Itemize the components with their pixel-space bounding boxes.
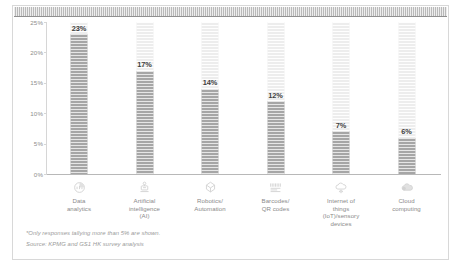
- category-item[interactable]: Dataanalytics: [47, 180, 111, 212]
- bar-background-track: [267, 22, 284, 101]
- category-label-line: analytics: [47, 205, 111, 213]
- bar-background-track: [333, 22, 350, 131]
- category-item[interactable]: Artificialintelligence(AI): [113, 180, 177, 220]
- category-label: Barcodes/QR codes: [244, 197, 308, 212]
- barcode-qr-icon: [244, 180, 308, 195]
- y-tick-label: 20%: [18, 49, 43, 56]
- bar-column[interactable]: 7%: [309, 22, 373, 174]
- y-tick-label: 0%: [18, 171, 43, 178]
- category-label: Cloudcomputing: [375, 197, 439, 212]
- bar-value-label: 23%: [72, 24, 87, 33]
- category-label: Dataanalytics: [47, 197, 111, 212]
- bar[interactable]: [136, 71, 153, 174]
- bar-value-label: 7%: [336, 121, 346, 130]
- category-label-line: intelligence: [113, 205, 177, 213]
- cloud-computing-icon: [375, 180, 439, 195]
- category-item[interactable]: Cloudcomputing: [375, 180, 439, 212]
- bar-column[interactable]: 23%: [47, 22, 111, 174]
- category-label-line: Cloud: [375, 197, 439, 205]
- bar[interactable]: [202, 89, 219, 174]
- bar-column[interactable]: 17%: [113, 22, 177, 174]
- x-axis-baseline: [46, 174, 441, 175]
- bar-value-label: 17%: [137, 60, 152, 69]
- category-label-line: (IoT)/sensory: [309, 212, 373, 220]
- bar[interactable]: [398, 138, 415, 174]
- bar-columns: 23%17%14%12%7%6%: [47, 22, 441, 174]
- category-label-line: computing: [375, 205, 439, 213]
- y-tick-label: 15%: [18, 79, 43, 86]
- category-label-line: Automation: [178, 205, 242, 213]
- top-hatched-band: [14, 7, 447, 17]
- category-label-line: Artificial: [113, 197, 177, 205]
- bar[interactable]: [71, 34, 88, 174]
- category-label-line: Robotics/: [178, 197, 242, 205]
- bar-column[interactable]: 6%: [375, 22, 439, 174]
- y-tick-mark: [44, 174, 47, 175]
- category-label-line: QR codes: [244, 205, 308, 213]
- category-item[interactable]: Robotics/Automation: [178, 180, 242, 212]
- y-tick-label: 5%: [18, 140, 43, 147]
- category-item[interactable]: Internet ofthings(IoT)/sensorydevices: [309, 180, 373, 227]
- category-label: Internet ofthings(IoT)/sensorydevices: [309, 197, 373, 227]
- bar-value-label: 6%: [401, 127, 411, 136]
- plot-area: 25%20%15%10%5%0% 23%17%14%12%7%6%: [18, 22, 443, 180]
- robotics-automation-icon: [178, 180, 242, 195]
- bar-column[interactable]: 14%: [178, 22, 242, 174]
- bar-value-label: 12%: [268, 91, 283, 100]
- chart-screenshot: 25%20%15%10%5%0% 23%17%14%12%7%6% Dataan…: [0, 0, 463, 269]
- category-label-line: devices: [309, 220, 373, 228]
- y-tick-label: 25%: [18, 19, 43, 26]
- category-item[interactable]: Barcodes/QR codes: [244, 180, 308, 212]
- category-label-line: (AI): [113, 212, 177, 220]
- artificial-intelligence-icon: [113, 180, 177, 195]
- bar[interactable]: [267, 101, 284, 174]
- category-label-line: Barcodes/: [244, 197, 308, 205]
- data-analytics-icon: [47, 180, 111, 195]
- bar-value-label: 14%: [203, 78, 218, 87]
- footnote-line-2: Source: KPMG and GS1 HK survey analysis: [26, 239, 326, 250]
- footnotes: *Only responses tallying more than 5% ar…: [26, 228, 326, 249]
- category-label-line: Data: [47, 197, 111, 205]
- bar-column[interactable]: 12%: [244, 22, 308, 174]
- internet-of-things-cloud-icon: [309, 180, 373, 195]
- bar-background-track: [398, 22, 415, 138]
- bar[interactable]: [333, 131, 350, 174]
- category-label: Artificialintelligence(AI): [113, 197, 177, 220]
- category-label: Robotics/Automation: [178, 197, 242, 212]
- category-label-line: things: [309, 205, 373, 213]
- y-tick-label: 10%: [18, 110, 43, 117]
- category-axis: DataanalyticsArtificialintelligence(AI)R…: [47, 180, 441, 228]
- footnote-line-1: *Only responses tallying more than 5% ar…: [26, 228, 326, 239]
- category-label-line: Internet of: [309, 197, 373, 205]
